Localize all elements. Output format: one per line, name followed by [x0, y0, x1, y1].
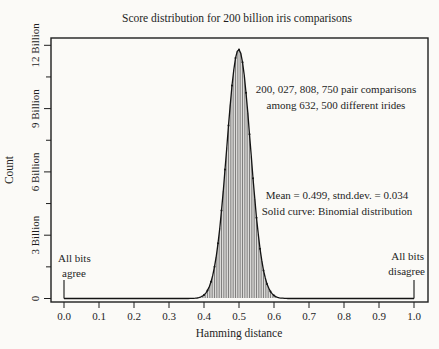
x-tick-label: 0.2: [127, 310, 141, 322]
curve-dot: [273, 295, 275, 297]
x-axis-title: Hamming distance: [196, 327, 283, 340]
x-tick-label: 0.3: [162, 310, 176, 322]
x-tick-label: 0.0: [57, 310, 71, 322]
curve-dot: [207, 289, 209, 291]
iris-score-distribution-chart: Score distribution for 200 billion iris …: [0, 0, 439, 349]
x-tick-label: 0.7: [302, 310, 316, 322]
curve-dot: [252, 177, 254, 179]
curve-dot: [270, 291, 272, 293]
x-tick-label: 0.9: [372, 310, 386, 322]
label-all-bits-agree-line1: All bits: [58, 252, 91, 264]
curve-dot: [221, 209, 223, 211]
y-tick-label: 6 Billion: [29, 152, 41, 191]
y-tick-label: 3 Billion: [29, 215, 41, 254]
curve-dot: [256, 217, 258, 219]
label-all-bits-disagree-line1: All bits: [391, 250, 424, 262]
curve-dot: [231, 85, 233, 87]
y-axis-title: Count: [3, 155, 15, 184]
x-axis-ticks: 0.00.10.20.30.40.50.60.70.80.91.0: [57, 302, 421, 322]
x-tick-label: 0.8: [337, 310, 351, 322]
y-tick-label: 0: [29, 295, 41, 301]
curve-dot: [214, 266, 216, 268]
curve-dot: [235, 57, 237, 59]
curve-dot: [259, 248, 261, 250]
curve-dot: [245, 92, 247, 94]
y-axis-ticks: 03 Billion6 Billion9 Billion12 Billion: [29, 23, 51, 302]
x-tick-label: 0.4: [197, 310, 211, 322]
x-tick-label: 0.6: [267, 310, 281, 322]
annotation-pair-comparisons-line2: among 632, 500 different irides: [267, 99, 406, 111]
annotation-pair-comparisons-line1: 200, 027, 808, 750 pair comparisons: [256, 83, 417, 95]
curve-dot: [224, 169, 226, 171]
x-tick-label: 0.5: [232, 310, 246, 322]
plot-frame: [51, 38, 428, 302]
annotation-stats-line2: Solid curve: Binomial distribution: [262, 205, 413, 217]
curve-dot: [263, 269, 265, 271]
y-tick-label: 12 Billion: [29, 23, 41, 68]
x-tick-label: 0.1: [92, 310, 106, 322]
curve-dot: [210, 281, 212, 283]
y-tick-label: 9 Billion: [29, 89, 41, 128]
label-all-bits-disagree-line2: disagree: [388, 265, 425, 277]
curve-dot: [228, 124, 230, 126]
curve-dot: [217, 242, 219, 244]
x-tick-label: 1.0: [407, 310, 421, 322]
curve-dot: [238, 49, 240, 51]
curve-dot: [249, 133, 251, 135]
curve-dot: [203, 294, 205, 296]
annotation-stats-line1: Mean = 0.499, stnd.dev. = 0.034: [266, 189, 409, 201]
curve-dot: [242, 61, 244, 63]
chart-title: Score distribution for 200 billion iris …: [122, 12, 353, 25]
label-all-bits-agree-line2: agree: [62, 267, 86, 279]
curve-dot: [266, 283, 268, 285]
